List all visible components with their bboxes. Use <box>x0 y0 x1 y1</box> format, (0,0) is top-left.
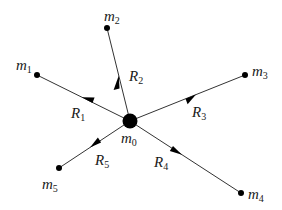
arrow-r1-icon <box>82 97 95 103</box>
mass-m3-dot <box>242 72 248 78</box>
arrow-r3-icon <box>186 95 197 105</box>
mass-m5-dot <box>56 165 62 171</box>
label-m2: m2 <box>104 9 120 26</box>
label-r3: R3 <box>192 105 206 122</box>
vector-r4-line <box>130 121 241 193</box>
arrow-r4-icon <box>170 146 182 155</box>
label-r1: R1 <box>71 106 85 123</box>
label-m5: m5 <box>42 177 58 194</box>
mass-m4-dot <box>238 190 244 196</box>
label-m3: m3 <box>252 64 268 81</box>
label-r2: R2 <box>129 69 143 86</box>
label-m1: m1 <box>16 58 32 75</box>
label-r5: R5 <box>95 153 109 170</box>
vector-r3-line <box>130 75 245 121</box>
arrow-r5-icon <box>90 138 101 148</box>
vector-r2-line <box>107 28 130 121</box>
label-m4: m4 <box>248 187 264 204</box>
mass-m1-dot <box>34 72 40 78</box>
mass-m0-dot <box>123 114 138 129</box>
label-r4: R4 <box>154 155 168 172</box>
label-m0: m0 <box>121 131 137 148</box>
arrow-r2-icon <box>114 76 120 90</box>
